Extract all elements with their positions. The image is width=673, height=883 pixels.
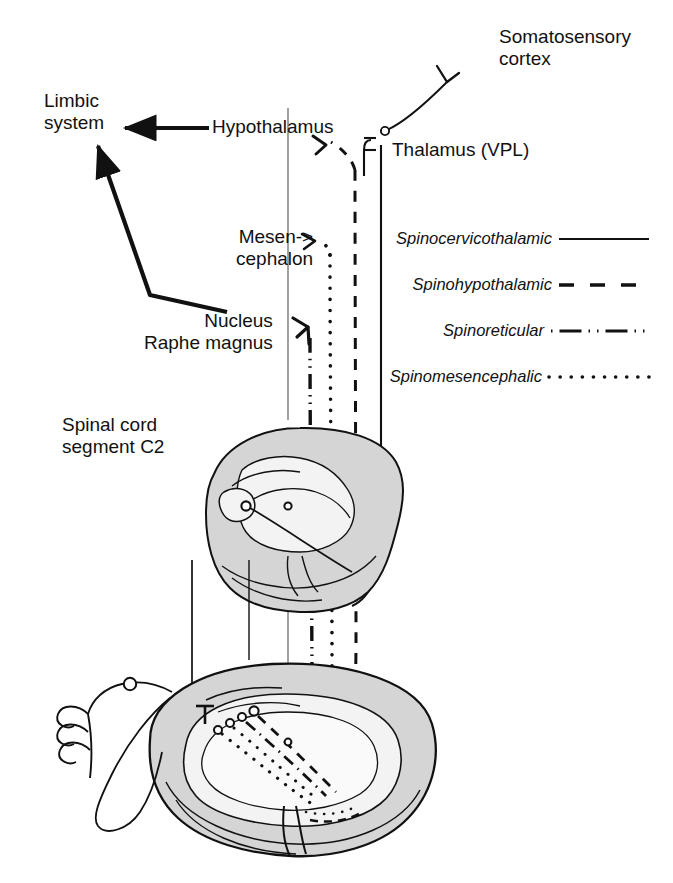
spinal-cord-cross-section-lumbar <box>150 664 436 857</box>
label-thalamus: Thalamus (VPL) <box>392 139 529 161</box>
legend-label-spinocervicothalamic: Spinocervicothalamic <box>336 229 552 248</box>
label-spinal-cord-segment-c2: Spinal cord segment C2 <box>62 414 164 459</box>
legend-label-spinomesencephalic: Spinomesencephalic <box>336 367 542 386</box>
label-somatosensory-cortex: Somatosensory cortex <box>499 26 631 71</box>
thalamocortical-projection <box>381 66 459 135</box>
legend-label-spinoreticular: Spinoreticular <box>336 321 544 340</box>
spinal-cord-cross-section-c2 <box>206 428 403 612</box>
legend-label-spinohypothalamic: Spinohypothalamic <box>336 275 552 294</box>
relay-neuron-cell-body-upper <box>241 501 250 510</box>
dorsal-horn-neuron-4 <box>249 706 258 715</box>
thalamus-cell-body-icon <box>381 127 389 135</box>
label-hypothalamus: Hypothalamus <box>212 116 333 138</box>
midline-neuron-marker-upper <box>284 502 291 509</box>
label-mesencephalon: Mesen-> cephalon <box>236 226 313 271</box>
dorsal-root-ganglion <box>124 678 136 690</box>
label-limbic-system: Limbic system <box>44 90 104 135</box>
dorsal-horn-neuron-1 <box>214 726 222 734</box>
legend-line-samples <box>549 239 649 377</box>
label-nucleus-raphe-magnus: Nucleus Raphe magnus <box>144 310 273 355</box>
reticular-to-limbic-arrow <box>98 146 227 312</box>
dorsal-horn-neuron-2 <box>226 719 234 727</box>
dorsal-horn-neuron-3 <box>238 713 246 721</box>
midline-neuron-marker-lower <box>285 739 292 746</box>
figure-root: Somatosensory cortex Thalamus (VPL) Hypo… <box>0 0 673 883</box>
